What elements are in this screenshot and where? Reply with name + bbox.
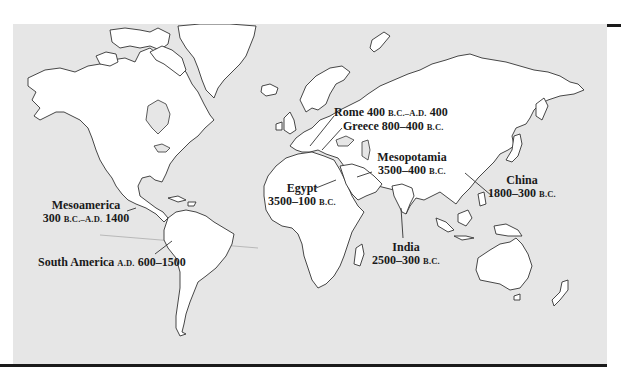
landmass-new-guinea [494,224,522,236]
label-greece: Greece 800–400 B.C. [343,120,444,134]
landmass-java [454,236,474,240]
landmass-cuba [168,196,186,202]
landmass-madagascar [354,244,364,266]
label-mesoamerica: Mesoamerica 300 B.C.–A.D. 1400 [40,199,132,226]
bottom-border-rule [0,364,607,367]
landmass-sumatra [436,218,454,232]
landmass-ireland [276,122,282,130]
label-egypt: Egypt 3500–100 B.C. [266,182,338,209]
label-mesopotamia: Mesopotamia 3500–400 B.C. [376,151,448,178]
landmass-philippines [478,192,486,206]
label-south-america: South America A.D. 600–1500 [38,256,186,270]
landmass-tasmania [514,294,520,300]
landmass-great-britain [284,112,296,134]
landmass-hispaniola [188,202,196,206]
label-india: India 2500–300 B.C. [370,241,442,268]
caspian-sea [362,140,370,160]
landmass-borneo [458,210,472,226]
landmass-south-america [164,210,234,336]
landmass-new-zealand [552,280,568,306]
landmass-australia [476,238,532,290]
landmass-novaya-zemlya [370,32,390,52]
landmass-india [392,184,414,214]
label-china: China 1800–300 B.C. [486,174,558,201]
landmass-iceland [261,84,278,96]
landmass-north-america [28,48,214,222]
label-rome: Rome 400 B.C.–A.D. 400 [334,106,448,120]
